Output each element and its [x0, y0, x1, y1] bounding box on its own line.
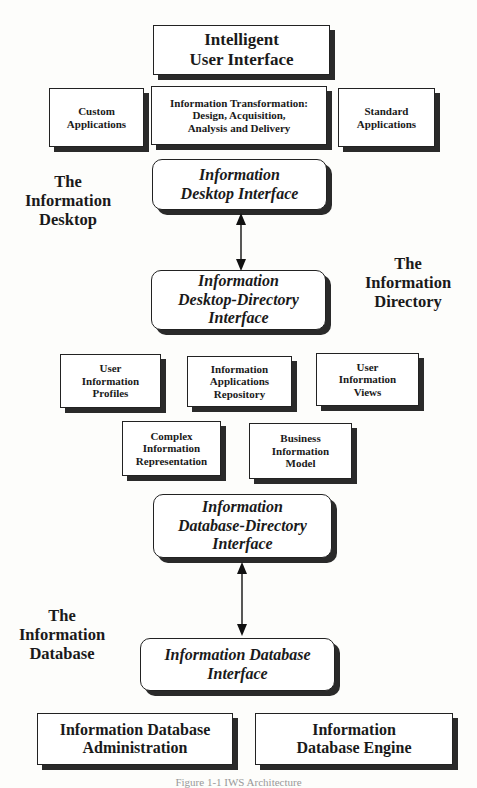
intelligent-user-interface-box: Intelligent User Interface	[153, 25, 330, 75]
information-database-administration-label: Information Database Administration	[60, 721, 211, 758]
user-information-views-label: User Information Views	[339, 361, 396, 399]
bidirectional-arrow-desktop	[233, 213, 249, 271]
information-database-interface-label: Information Database Interface	[164, 646, 310, 683]
section-label-directory: The Information Directory	[358, 255, 458, 312]
figure-caption: Figure 1-1 IWS Architecture	[0, 776, 477, 788]
information-transformation-label: Information Transformation: Design, Acqu…	[170, 97, 308, 135]
custom-applications-label: Custom Applications	[67, 105, 126, 130]
user-information-views-box: User Information Views	[316, 353, 419, 406]
information-applications-repository-box: Information Applications Repository	[187, 356, 292, 407]
information-desktop-directory-interface-box: Information Desktop-Directory Interface	[151, 270, 326, 330]
information-transformation-box: Information Transformation: Design, Acqu…	[151, 86, 327, 145]
custom-applications-box: Custom Applications	[49, 88, 144, 147]
information-desktop-interface-box: Information Desktop Interface	[152, 159, 327, 210]
user-information-profiles-label: User Information Profiles	[82, 362, 139, 400]
user-information-profiles-box: User Information Profiles	[60, 354, 161, 408]
information-database-directory-interface-label: Information Database-Directory Interface	[178, 498, 307, 553]
information-desktop-directory-interface-label: Information Desktop-Directory Interface	[178, 272, 299, 327]
information-database-engine-box: Information Database Engine	[255, 713, 453, 765]
section-label-desktop: The Information Desktop	[18, 173, 118, 230]
information-applications-repository-label: Information Applications Repository	[210, 363, 269, 401]
complex-information-representation-label: Complex Information Representation	[136, 430, 207, 468]
information-database-directory-interface-box: Information Database-Directory Interface	[153, 494, 332, 558]
complex-information-representation-box: Complex Information Representation	[122, 421, 221, 476]
section-label-database: The Information Database	[12, 607, 112, 664]
information-database-administration-box: Information Database Administration	[37, 713, 233, 765]
information-database-interface-box: Information Database Interface	[140, 638, 335, 691]
information-database-engine-label: Information Database Engine	[296, 721, 411, 758]
standard-applications-label: Standard Applications	[357, 105, 416, 130]
bidirectional-arrow-database	[234, 562, 250, 636]
information-desktop-interface-label: Information Desktop Interface	[181, 166, 299, 203]
business-information-model-box: Business Information Model	[249, 423, 352, 479]
standard-applications-box: Standard Applications	[338, 88, 435, 147]
intelligent-user-interface-label: Intelligent User Interface	[189, 30, 293, 69]
business-information-model-label: Business Information Model	[272, 432, 329, 470]
